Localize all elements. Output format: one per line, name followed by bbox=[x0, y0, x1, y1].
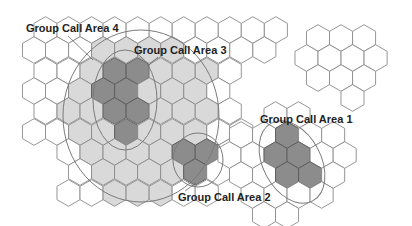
group-call-area-3-label: Group Call Area 3 bbox=[134, 44, 227, 56]
group-call-area-4-label: Group Call Area 4 bbox=[26, 22, 119, 34]
cell-grid: Group Call Area 4 Group Call Area 3 Grou… bbox=[0, 0, 412, 226]
group-call-area-1-label: Group Call Area 1 bbox=[260, 113, 353, 125]
group-call-area-diagram: Group Call Area 4 Group Call Area 3 Grou… bbox=[0, 0, 412, 226]
top-right-cluster bbox=[295, 25, 387, 112]
group-call-area-2-label: Group Call Area 2 bbox=[178, 191, 271, 203]
